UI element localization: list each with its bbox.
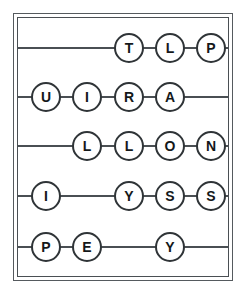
letter-circle[interactable]: N [196, 131, 226, 161]
letter-circle-label: Y [165, 240, 174, 254]
letter-circle-label: S [165, 189, 174, 203]
letter-circle[interactable]: U [31, 82, 61, 112]
letter-circle-label: P [41, 240, 50, 254]
letter-circle[interactable]: O [155, 131, 185, 161]
puzzle-row: PEY [18, 230, 229, 264]
letter-circle[interactable]: L [72, 131, 102, 161]
puzzle-canvas: TLPUIRALLONIYSSPEY [0, 0, 248, 296]
letter-circle[interactable]: R [114, 82, 144, 112]
letter-circle[interactable]: Y [155, 232, 185, 262]
letter-circle[interactable]: T [114, 33, 144, 63]
letter-circle-label: S [206, 189, 215, 203]
letter-circle[interactable]: P [31, 232, 61, 262]
letter-circle-label: I [44, 189, 48, 203]
letter-circle-label: I [85, 90, 89, 104]
puzzle-row: IYSS [18, 179, 229, 213]
letter-circle[interactable]: S [196, 181, 226, 211]
rows-layer: TLPUIRALLONIYSSPEY [0, 0, 248, 296]
letter-circle-label: Y [124, 189, 133, 203]
letter-circle-label: O [165, 139, 176, 153]
letter-circle[interactable]: S [155, 181, 185, 211]
letter-circle-label: L [125, 139, 134, 153]
letter-circle[interactable]: I [72, 82, 102, 112]
letter-circle[interactable]: Y [114, 181, 144, 211]
letter-circle[interactable]: P [196, 33, 226, 63]
puzzle-row: TLP [18, 31, 229, 65]
puzzle-row: UIRA [18, 80, 229, 114]
letter-circle[interactable]: I [31, 181, 61, 211]
letter-circle[interactable]: L [114, 131, 144, 161]
letter-circle-label: E [82, 240, 91, 254]
letter-circle[interactable]: E [72, 232, 102, 262]
letter-circle-label: P [206, 41, 215, 55]
letter-circle-label: R [124, 90, 134, 104]
letter-circle[interactable]: A [155, 82, 185, 112]
letter-circle-label: L [83, 139, 92, 153]
puzzle-row: LLON [18, 129, 229, 163]
letter-circle-label: L [166, 41, 175, 55]
letter-circle-label: T [125, 41, 134, 55]
letter-circle-label: U [41, 90, 51, 104]
letter-circle[interactable]: L [155, 33, 185, 63]
letter-circle-label: A [165, 90, 175, 104]
letter-circle-label: N [206, 139, 216, 153]
